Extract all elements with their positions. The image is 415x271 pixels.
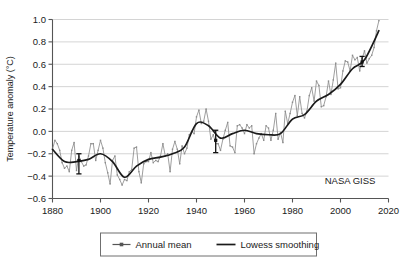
y-tick-label: 0.2 bbox=[33, 103, 46, 114]
y-axis-title-text: Temperature anomaly (°C) bbox=[5, 56, 15, 162]
x-tick-label: 1900 bbox=[90, 205, 111, 216]
x-tick-label: 2000 bbox=[330, 205, 351, 216]
temperature-anomaly-chart: −0.6−0.4−0.20.00.20.40.60.81.0 188019001… bbox=[0, 0, 415, 271]
legend-label-lowess-smoothing: Lowess smoothing bbox=[241, 239, 320, 250]
chart-annotations: NASA GISS bbox=[325, 175, 376, 186]
y-tick-label: 0.8 bbox=[33, 36, 46, 47]
x-tick-label: 1920 bbox=[138, 205, 159, 216]
x-tick-label: 2020 bbox=[378, 205, 399, 216]
y-tick-label: 0.6 bbox=[33, 59, 46, 70]
legend-label-annual-mean: Annual mean bbox=[136, 239, 192, 250]
y-tick-label: 0.4 bbox=[33, 81, 46, 92]
y-tick-label: 0.0 bbox=[33, 126, 46, 137]
x-tick-label: 1880 bbox=[42, 205, 63, 216]
y-tick-label: −0.2 bbox=[27, 148, 46, 159]
y-tick-label: 1.0 bbox=[33, 14, 46, 25]
x-axis-ticks: 18801900192019401960198020002020 bbox=[42, 199, 399, 216]
series-annual-mean bbox=[52, 20, 380, 186]
source-annotation: NASA GISS bbox=[325, 175, 376, 186]
y-tick-label: −0.6 bbox=[27, 193, 46, 204]
y-tick-label: −0.4 bbox=[27, 171, 46, 182]
y-axis-ticks: −0.6−0.4−0.20.00.20.40.60.81.0 bbox=[27, 14, 52, 204]
chart-figure: −0.6−0.4−0.20.00.20.40.60.81.0 188019001… bbox=[0, 0, 415, 271]
grid-lines bbox=[53, 20, 389, 177]
series-lowess-smoothing bbox=[53, 31, 379, 178]
y-axis-title: Temperature anomaly (°C) bbox=[5, 56, 15, 162]
x-tick-label: 1980 bbox=[282, 205, 303, 216]
error-bars bbox=[76, 56, 364, 173]
chart-legend: Annual meanLowess smoothing bbox=[101, 233, 320, 256]
x-tick-label: 1960 bbox=[234, 205, 255, 216]
x-tick-label: 1940 bbox=[186, 205, 207, 216]
